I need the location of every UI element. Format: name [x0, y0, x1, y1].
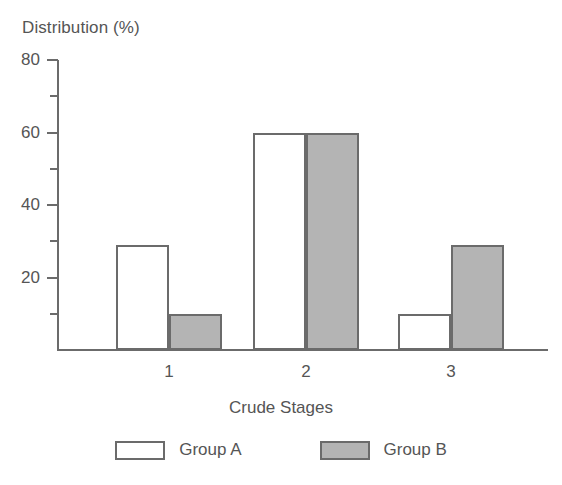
- x-tick-label-3: 3: [421, 362, 481, 382]
- legend-item-group-a: Group A: [115, 440, 241, 460]
- bar-group-a-stage-1: [116, 245, 169, 350]
- plot-area: [57, 60, 548, 350]
- legend-label: Group A: [179, 440, 241, 460]
- legend-item-group-b: Group B: [320, 440, 447, 460]
- y-tick-label: 40: [0, 196, 40, 213]
- x-tick-label-1: 1: [139, 362, 199, 382]
- legend-label: Group B: [384, 440, 447, 460]
- chart-legend: Group AGroup B: [0, 440, 562, 460]
- bar-group-a-stage-2: [253, 133, 306, 351]
- y-tick-label: 20: [0, 269, 40, 286]
- bar-group-a-stage-3: [398, 314, 451, 350]
- y-tick-label: 60: [0, 124, 40, 141]
- y-axis-title: Distribution (%): [22, 18, 140, 38]
- bar-group-b-stage-2: [306, 133, 359, 351]
- x-tick-label-2: 2: [276, 362, 336, 382]
- bar-group-b-stage-3: [451, 245, 504, 350]
- bar-chart-figure: Distribution (%) 20406080 123 Crude Stag…: [0, 0, 562, 485]
- bar-group-b-stage-1: [169, 314, 222, 350]
- white-swatch: [115, 441, 165, 460]
- gray-swatch: [320, 441, 370, 460]
- y-tick-label: 80: [0, 51, 40, 68]
- x-axis-title: Crude Stages: [0, 398, 562, 418]
